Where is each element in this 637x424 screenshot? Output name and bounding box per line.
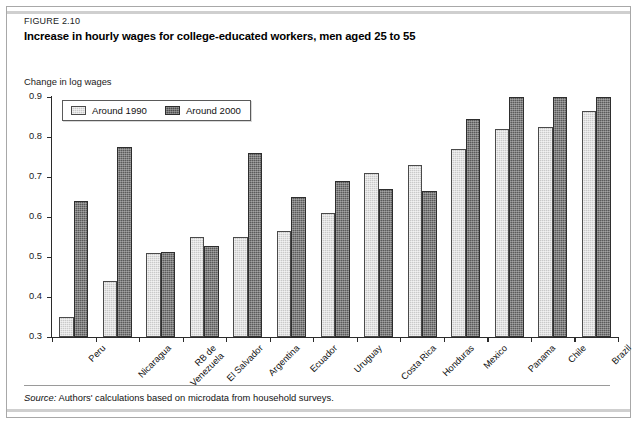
y-tick-mark [47, 177, 52, 178]
bar [146, 253, 161, 337]
figure-page: FIGURE 2.10 Increase in hourly wages for… [0, 0, 637, 424]
bar-group [538, 97, 567, 337]
bar-group [233, 97, 262, 337]
y-tick-label: 0.4 [29, 291, 42, 301]
source-text: Authors' calculations based on microdata… [58, 392, 333, 403]
bottom-rule [7, 409, 630, 412]
x-tick-mark [574, 337, 575, 342]
bar-group [495, 97, 524, 337]
chart-legend: Around 1990Around 2000 [62, 100, 251, 121]
y-tick-label: 0.5 [29, 251, 42, 261]
source-prefix: Source: [24, 392, 56, 403]
bar [422, 191, 437, 337]
bar-group [103, 97, 132, 337]
y-tick-mark [47, 297, 52, 298]
y-tick-label: 0.8 [29, 131, 42, 141]
bar [495, 129, 510, 337]
legend-item: Around 1990 [71, 105, 147, 116]
bar [451, 149, 466, 337]
figure-number: FIGURE 2.10 [24, 16, 80, 26]
bar-group [190, 97, 219, 337]
bar-group [408, 97, 437, 337]
bar [233, 237, 248, 337]
top-rule [7, 11, 630, 14]
y-tick-mark [47, 97, 52, 98]
y-tick-mark [47, 257, 52, 258]
bar [59, 317, 74, 337]
x-tick-mark [96, 337, 97, 342]
legend-label: Around 1990 [92, 105, 147, 116]
y-tick-label: 0.3 [29, 331, 42, 341]
x-tick-mark [618, 337, 619, 342]
bar [117, 147, 132, 337]
bar [538, 127, 553, 337]
dark-hatched-swatch [165, 106, 180, 115]
x-tick-mark [487, 337, 488, 342]
bar [103, 281, 118, 337]
source-note: Source: Authors' calculations based on m… [24, 392, 334, 403]
bar-group [146, 97, 175, 337]
y-axis-title: Change in log wages [24, 76, 112, 87]
bar-group [451, 97, 480, 337]
x-tick-mark [183, 337, 184, 342]
bar [466, 119, 481, 337]
x-tick-mark [226, 337, 227, 342]
x-tick-mark [531, 337, 532, 342]
plot-area: 0.30.40.50.60.70.80.9 [52, 97, 618, 337]
y-tick-mark [47, 217, 52, 218]
bar [408, 165, 423, 337]
y-tick-mark [47, 137, 52, 138]
x-tick-mark [52, 337, 53, 342]
x-tick-mark [357, 337, 358, 342]
x-tick-mark [313, 337, 314, 342]
bar-group [59, 97, 88, 337]
bar [379, 189, 394, 337]
bar [364, 173, 379, 337]
bar [596, 97, 611, 337]
bar [204, 246, 219, 337]
bar [335, 181, 350, 337]
bar [248, 153, 263, 337]
bar [553, 97, 568, 337]
bar [277, 231, 292, 337]
bar [321, 213, 336, 337]
y-tick-label: 0.6 [29, 211, 42, 221]
x-tick-mark [270, 337, 271, 342]
legend-label: Around 2000 [186, 105, 241, 116]
bar-group [321, 97, 350, 337]
bar-group [277, 97, 306, 337]
y-tick-label: 0.7 [29, 171, 42, 181]
bar [509, 97, 524, 337]
bar [190, 237, 205, 337]
bar [291, 197, 306, 337]
x-tick-mark [444, 337, 445, 342]
bar-group [582, 97, 611, 337]
figure-title: Increase in hourly wages for college-edu… [24, 30, 415, 42]
bar [582, 111, 597, 337]
source-divider [24, 385, 610, 386]
light-hatched-swatch [71, 106, 86, 115]
x-tick-mark [400, 337, 401, 342]
bar [161, 252, 176, 337]
x-tick-mark [139, 337, 140, 342]
legend-item: Around 2000 [165, 105, 241, 116]
bar [74, 201, 89, 337]
y-tick-label: 0.9 [29, 91, 42, 101]
bar-group [364, 97, 393, 337]
